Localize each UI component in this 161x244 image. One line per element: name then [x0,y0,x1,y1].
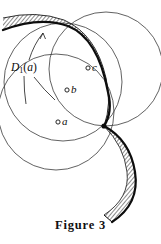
figure-caption: Figure 3 [0,218,161,233]
circle-disk-c [49,12,161,126]
figure-drawing [0,0,161,244]
annotation-label-d1: D1(a) [11,62,37,75]
point-marker-a [56,120,60,124]
point-marker-c [86,66,90,70]
annotation-leader-line-tertiary [34,77,55,100]
annotation-leader-line-secondary [24,76,26,104]
annotation-close-paren: ) [33,61,37,73]
point-label-b: b [71,84,77,95]
point-label-c: c [92,62,97,73]
tangency-point [101,123,106,128]
figure-container: D1(a) c b a Figure 3 [0,0,161,244]
point-marker-b [65,88,69,92]
point-label-a: a [62,116,68,127]
